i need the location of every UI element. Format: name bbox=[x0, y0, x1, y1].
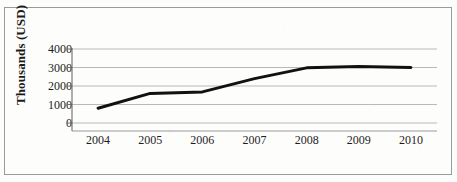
x-tick-label: 2004 bbox=[74, 133, 122, 148]
x-tick-label: 2010 bbox=[387, 133, 435, 148]
x-tick-label: 2007 bbox=[231, 133, 279, 148]
data-series-line bbox=[98, 67, 411, 109]
chart-figure: Thousands (USD) 01000200030004000 200420… bbox=[0, 0, 457, 182]
x-tick-label: 2006 bbox=[178, 133, 226, 148]
x-tick-label: 2009 bbox=[335, 133, 383, 148]
gridlines bbox=[68, 49, 437, 123]
x-tick-label: 2008 bbox=[283, 133, 331, 148]
axis-lines bbox=[72, 48, 437, 131]
plot-area bbox=[0, 0, 457, 182]
x-tick-label: 2005 bbox=[126, 133, 174, 148]
